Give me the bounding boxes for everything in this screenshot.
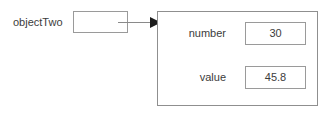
field-value-box-number: 30	[245, 22, 306, 45]
field-label-value: value	[200, 66, 226, 89]
variable-name-label: objectTwo	[13, 15, 63, 29]
field-label-number: number	[189, 22, 226, 45]
field-value-number: 30	[246, 23, 305, 44]
object-reference-diagram: objectTwo number 30 value 45.8	[0, 0, 331, 118]
object-panel: number 30 value 45.8	[157, 11, 318, 106]
field-value-box-value: 45.8	[245, 66, 306, 89]
object-field-row: value 45.8	[158, 66, 317, 89]
object-field-row: number 30	[158, 22, 317, 45]
reference-box	[73, 11, 128, 33]
field-value-value: 45.8	[246, 67, 305, 88]
